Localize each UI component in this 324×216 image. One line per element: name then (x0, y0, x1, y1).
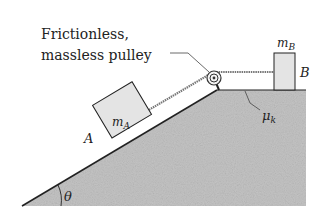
pulley-axle (213, 77, 216, 80)
block-b-label: B (299, 65, 310, 80)
block-a (93, 82, 152, 138)
pulley-label-line2: massless pulley (41, 47, 152, 63)
block-b-mass-label: mB (277, 36, 295, 52)
pulley (207, 71, 221, 90)
pulley-label-line1: Frictionless, (41, 26, 129, 42)
block-b (274, 53, 295, 90)
angle-label: θ (64, 189, 72, 204)
block-a-label: A (83, 131, 93, 146)
incline-pulley-diagram: θ mA A Frictionless, massless pulley mB … (0, 0, 324, 216)
pulley-leader-line (170, 53, 209, 72)
